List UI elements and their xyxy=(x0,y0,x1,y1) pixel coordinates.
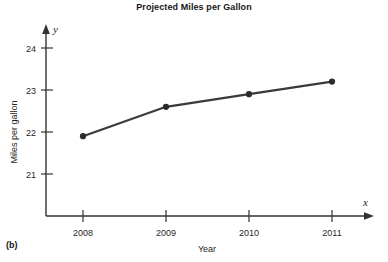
y-tick-label: 24 xyxy=(26,44,36,54)
x-tick-group: 2008 2009 2010 2011 xyxy=(73,210,342,238)
x-axis-arrow-icon xyxy=(364,212,374,220)
y-tick-label: 21 xyxy=(26,170,36,180)
x-tick-label: 2010 xyxy=(239,228,259,238)
x-axis-variable-label: x xyxy=(362,196,368,208)
data-point-marker xyxy=(329,79,335,85)
x-axis-title: Year xyxy=(198,244,216,254)
data-point-marker xyxy=(246,91,252,97)
y-tick-label: 23 xyxy=(26,86,36,96)
y-axis-title: Miles per gallon xyxy=(9,100,19,163)
y-axis: y xyxy=(42,23,58,216)
y-axis-arrow-icon xyxy=(42,24,50,34)
line-chart: y x 21 22 23 24 2008 2009 2010 xyxy=(0,0,388,262)
data-point-marker xyxy=(80,133,86,139)
y-tick-label: 22 xyxy=(26,128,36,138)
figure-panel: Projected Miles per Gallon y x 21 22 23 … xyxy=(0,0,388,262)
data-point-marker xyxy=(163,104,169,110)
x-tick-label: 2008 xyxy=(73,228,93,238)
x-tick-label: 2009 xyxy=(156,228,176,238)
x-tick-label: 2011 xyxy=(322,228,341,238)
panel-label: (b) xyxy=(6,240,18,250)
y-axis-variable-label: y xyxy=(52,23,58,35)
y-tick-group: 21 22 23 24 xyxy=(26,44,53,180)
x-axis: x xyxy=(46,196,374,220)
data-series-line xyxy=(83,82,332,137)
